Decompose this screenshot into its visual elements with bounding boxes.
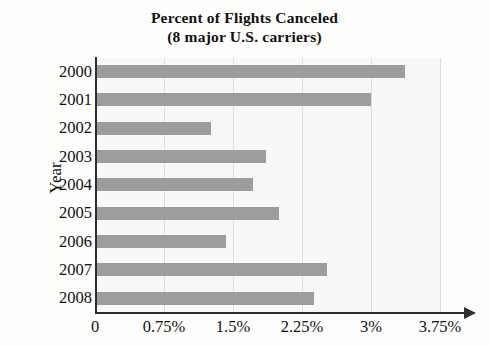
chart-canvas: Percent of Flights Canceled (8 major U.S… [0, 0, 489, 346]
y-tick-label-2000: 2000 [22, 64, 92, 81]
chart-title-line-2: (8 major U.S. carriers) [0, 27, 489, 46]
y-tick-label-2008: 2008 [22, 290, 92, 307]
bar-2007 [95, 263, 327, 276]
gridline [440, 58, 441, 313]
y-tick-label-2005: 2005 [22, 205, 92, 222]
x-axis-line [95, 312, 467, 314]
bar-2006 [95, 235, 226, 248]
y-tick-label-2001: 2001 [22, 92, 92, 109]
y-tick-label-2002: 2002 [22, 120, 92, 137]
bar-2008 [95, 292, 314, 305]
bar-2001 [95, 93, 371, 106]
gridline [371, 58, 372, 313]
y-tick-label-2003: 2003 [22, 149, 92, 166]
y-tick-label-2004: 2004 [22, 177, 92, 194]
bar-2000 [95, 65, 405, 78]
y-tick-label-2006: 2006 [22, 234, 92, 251]
plot-area [95, 58, 475, 313]
y-axis-tick-labels: 200020012002200320042005200620072008 [20, 58, 92, 313]
chart-title-line-1: Percent of Flights Canceled [151, 9, 338, 26]
x-tick-label-3-75pct: 3.75% [395, 318, 485, 336]
chart-title: Percent of Flights Canceled (8 major U.S… [0, 8, 489, 46]
bar-2005 [95, 207, 279, 220]
y-axis-line [95, 57, 97, 314]
bar-2003 [95, 150, 266, 163]
bar-2004 [95, 178, 253, 191]
bar-2002 [95, 122, 211, 135]
y-tick-label-2007: 2007 [22, 262, 92, 279]
